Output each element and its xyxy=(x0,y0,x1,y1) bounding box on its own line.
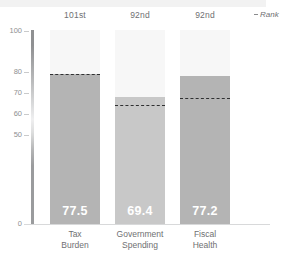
bar-fill-government-spending[interactable]: 69.4 xyxy=(115,97,165,224)
ytick-mark-70 xyxy=(24,93,29,94)
x-axis-label-fiscal-health-line2: Health xyxy=(165,240,245,251)
ytick-mark-80 xyxy=(24,72,29,73)
x-axis-labels: Tax Burden Government Spending Fiscal He… xyxy=(0,229,283,259)
rank-label-fiscal-health: 92nd xyxy=(172,9,238,21)
plot-area: 100 80 70 60 50 0 77.5 69.4 xyxy=(0,30,283,226)
bar-value-government-spending: 69.4 xyxy=(115,204,165,218)
ytick-mark-100 xyxy=(24,31,29,32)
ytick-label-60: 60 xyxy=(0,110,22,118)
bar-column-government-spending[interactable]: 69.4 xyxy=(107,30,173,224)
bar-column-fiscal-health[interactable]: 77.2 xyxy=(172,30,238,224)
rank-label-government-spending: 92nd xyxy=(107,9,173,21)
rank-header-row: 101st 92nd 92nd Rank xyxy=(0,9,283,25)
x-axis-baseline xyxy=(24,224,270,225)
reference-line-fiscal-health xyxy=(180,98,230,99)
bar-value-tax-burden: 77.5 xyxy=(50,204,100,218)
ytick-mark-50 xyxy=(24,135,29,136)
y-axis-gradient-bar xyxy=(31,30,34,224)
ytick-label-100: 100 xyxy=(0,27,22,35)
rank-legend-label: Rank xyxy=(260,10,279,19)
bar-value-fiscal-health: 77.2 xyxy=(180,204,230,218)
x-axis-label-fiscal-health-line1: Fiscal xyxy=(165,229,245,240)
rank-label-tax-burden: 101st xyxy=(42,9,108,21)
ytick-label-0: 0 xyxy=(0,220,22,228)
top-banner-strip xyxy=(0,0,266,7)
ytick-label-70: 70 xyxy=(0,89,22,97)
rank-legend: Rank xyxy=(254,9,279,21)
bar-fill-tax-burden[interactable]: 77.5 xyxy=(50,74,100,224)
bar-column-tax-burden[interactable]: 77.5 xyxy=(42,30,108,224)
x-axis-label-fiscal-health: Fiscal Health xyxy=(165,229,245,250)
bar-chart: 101st 92nd 92nd Rank 100 80 70 60 50 0 7… xyxy=(0,0,283,259)
ytick-label-80: 80 xyxy=(0,68,22,76)
ytick-label-50: 50 xyxy=(0,131,22,139)
dash-line-icon xyxy=(254,14,258,15)
reference-line-government-spending xyxy=(115,105,165,106)
reference-line-tax-burden xyxy=(50,74,100,75)
ytick-mark-60 xyxy=(24,114,29,115)
